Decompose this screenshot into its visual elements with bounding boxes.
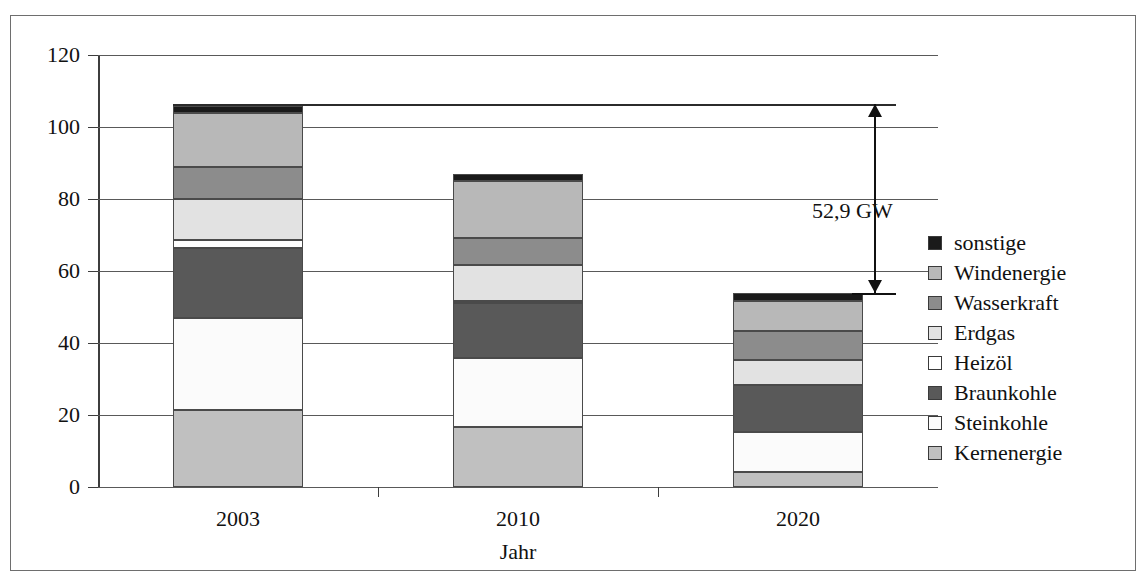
bar-segment-windenergie[interactable] <box>453 181 583 238</box>
difference-annotation-label: 52,9 GW <box>812 200 893 222</box>
legend-item-label: Steinkohle <box>954 412 1048 434</box>
bar-segment-sonstige[interactable] <box>733 293 863 301</box>
y-axis-tick-label: 80 <box>22 188 80 210</box>
legend-swatch-icon <box>928 356 942 370</box>
legend-item-erdgas[interactable]: Erdgas <box>928 318 1066 348</box>
bar-segment-erdgas[interactable] <box>453 265 583 301</box>
legend-item-label: Heizöl <box>954 352 1013 374</box>
bar-segment-kernenergie[interactable] <box>733 472 863 487</box>
y-axis-tick <box>88 55 98 56</box>
y-axis-tick <box>88 271 98 272</box>
bar-segment-steinkohle[interactable] <box>173 318 303 410</box>
legend-item-label: Kernenergie <box>954 442 1062 464</box>
bar-2003[interactable] <box>173 55 303 487</box>
difference-arrow-head-up <box>868 104 882 117</box>
bar-segment-steinkohle[interactable] <box>733 432 863 472</box>
bar-segment-kernenergie[interactable] <box>453 427 583 487</box>
bar-segment-erdgas[interactable] <box>733 360 863 385</box>
bar-segment-wasserkraft[interactable] <box>453 238 583 265</box>
legend-item-braunkohle[interactable]: Braunkohle <box>928 378 1066 408</box>
difference-arrow-head-down <box>868 280 882 293</box>
bar-segment-wasserkraft[interactable] <box>733 331 863 360</box>
legend-item-heizol[interactable]: Heizöl <box>928 348 1066 378</box>
y-axis-tick-label: 40 <box>22 332 80 354</box>
legend-swatch-icon <box>928 386 942 400</box>
bar-segment-sonstige[interactable] <box>173 106 303 113</box>
bar-segment-kernenergie[interactable] <box>173 410 303 487</box>
legend-item-label: Wasserkraft <box>954 292 1059 314</box>
bar-segment-braunkohle[interactable] <box>173 248 303 318</box>
legend-item-kernenergie[interactable]: Kernenergie <box>928 438 1066 468</box>
legend-item-label: Erdgas <box>954 322 1015 344</box>
chart-canvas: 020406080100120200320102020 sonstigeWind… <box>0 0 1146 587</box>
bar-2020[interactable] <box>733 55 863 487</box>
bar-segment-windenergie[interactable] <box>173 113 303 167</box>
legend-item-wasserkraft[interactable]: Wasserkraft <box>928 288 1066 318</box>
bar-segment-braunkohle[interactable] <box>453 303 583 359</box>
legend-item-steinkohle[interactable]: Steinkohle <box>928 408 1066 438</box>
bar-segment-erdgas[interactable] <box>173 199 303 240</box>
x-axis-tick-label: 2020 <box>728 508 868 530</box>
legend-swatch-icon <box>928 446 942 460</box>
y-axis-tick-label: 20 <box>22 404 80 426</box>
legend-swatch-icon <box>928 416 942 430</box>
x-axis-tick <box>658 487 659 497</box>
annotation-leader-line <box>173 104 896 106</box>
legend-item-label: sonstige <box>954 232 1026 254</box>
legend-item-label: Braunkohle <box>954 382 1057 404</box>
legend-swatch-icon <box>928 326 942 340</box>
bar-2010[interactable] <box>453 55 583 487</box>
bar-segment-steinkohle[interactable] <box>453 358 583 426</box>
x-axis-title: Jahr <box>418 539 618 565</box>
bar-segment-sonstige[interactable] <box>453 174 583 181</box>
bar-segment-wasserkraft[interactable] <box>173 167 303 199</box>
y-axis-tick <box>88 127 98 128</box>
bar-segment-heizol[interactable] <box>453 301 583 303</box>
y-axis-tick <box>88 343 98 344</box>
x-axis-tick <box>378 487 379 497</box>
y-axis-tick <box>88 199 98 200</box>
legend-swatch-icon <box>928 236 942 250</box>
bar-segment-heizol[interactable] <box>173 240 303 247</box>
bar-segment-windenergie[interactable] <box>733 301 863 332</box>
x-axis-tick-label: 2010 <box>448 508 588 530</box>
bar-segment-braunkohle[interactable] <box>733 385 863 432</box>
y-axis-tick-label: 120 <box>22 44 80 66</box>
annotation-lower-endcap <box>852 293 896 295</box>
y-axis-tick <box>88 415 98 416</box>
x-axis-tick-label: 2003 <box>168 508 308 530</box>
legend-item-windenergie[interactable]: Windenergie <box>928 258 1066 288</box>
legend-swatch-icon <box>928 266 942 280</box>
y-axis-tick-label: 60 <box>22 260 80 282</box>
y-gridline <box>98 487 938 488</box>
chart-legend: sonstigeWindenergieWasserkraftErdgasHeiz… <box>928 228 1066 468</box>
legend-swatch-icon <box>928 296 942 310</box>
y-axis-tick-label: 100 <box>22 116 80 138</box>
legend-item-sonstige[interactable]: sonstige <box>928 228 1066 258</box>
y-axis-tick-label: 0 <box>22 476 80 498</box>
y-axis-tick <box>88 487 98 488</box>
legend-item-label: Windenergie <box>954 262 1066 284</box>
